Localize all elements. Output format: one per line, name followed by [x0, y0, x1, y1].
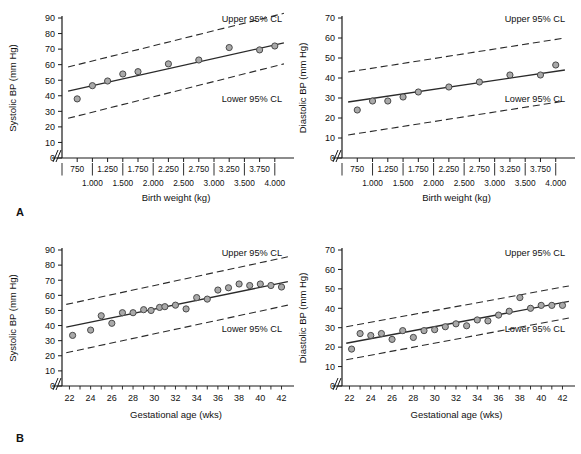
chart-svg-b-systolic: 0102030405060708090Systolic BP (mm Hg)22… — [0, 228, 300, 428]
data-point — [378, 330, 384, 336]
x-axis-tick-label: 1.750 — [128, 164, 149, 174]
y-axis-tick-label: 40 — [325, 304, 335, 314]
y-axis-tick-label: 0 — [50, 153, 55, 163]
data-point — [141, 307, 147, 313]
data-point — [215, 287, 221, 293]
data-point — [109, 320, 115, 326]
data-point — [369, 98, 375, 104]
data-point — [225, 285, 231, 291]
data-point — [385, 98, 391, 104]
data-point — [549, 302, 555, 308]
x-axis-tick-label: 38 — [234, 393, 244, 403]
y-axis-tick-label: 20 — [45, 351, 55, 361]
x-axis-tick-label: 2.500 — [173, 178, 194, 188]
x-axis-tick-label: 3.000 — [204, 178, 225, 188]
data-point — [453, 321, 459, 327]
x-axis-tick-label: 1.250 — [377, 164, 398, 174]
x-axis-tick-label: 3.000 — [484, 178, 505, 188]
y-axis-tick-label: 50 — [325, 284, 335, 294]
y-axis-tick-label: 0 — [330, 153, 335, 163]
chart-panel-a-diastolic: 010203040506070Diastolic BP (mm Hg)7501.… — [290, 0, 581, 210]
data-point — [119, 310, 125, 316]
data-point — [348, 346, 354, 352]
figure-root: 0102030405060708090Systolic BP (mm Hg)75… — [0, 0, 581, 454]
data-point — [236, 281, 242, 287]
chart-svg-b-diastolic: 010203040506070Diastolic BP (mm Hg)22242… — [290, 228, 581, 428]
lower-cl-annotation: Lower 95% CL — [505, 324, 565, 334]
x-axis-tick-label: 3.750 — [249, 164, 270, 174]
x-axis-tick-label: 34 — [472, 393, 482, 403]
data-point — [400, 328, 406, 334]
x-axis-tick-label: 3.250 — [219, 164, 240, 174]
x-axis-tick-label: 40 — [255, 393, 265, 403]
data-point — [272, 43, 278, 49]
y-axis-tick-label: 0 — [330, 381, 335, 391]
data-point — [446, 84, 452, 90]
data-point — [432, 327, 438, 333]
y-axis-tick-label: 30 — [45, 336, 55, 346]
y-axis-tick-label: 70 — [325, 245, 335, 255]
lower-cl-annotation: Lower 95% CL — [222, 324, 282, 334]
data-point — [70, 332, 76, 338]
y-axis-tick-label: 70 — [325, 13, 335, 23]
y-axis-tick-label: 60 — [325, 33, 335, 43]
data-point — [172, 302, 178, 308]
x-axis-title: Gestational age (wks) — [130, 409, 222, 420]
data-point — [485, 318, 491, 324]
y-axis-title: Systolic BP (mm Hg) — [7, 274, 18, 361]
x-axis-tick-label: 32 — [451, 393, 461, 403]
data-point — [537, 72, 543, 78]
data-point — [442, 324, 448, 330]
y-axis-tick-label: 60 — [45, 60, 55, 70]
x-axis-tick-label: 1.500 — [112, 178, 133, 188]
x-axis-tick-label: 36 — [494, 393, 504, 403]
y-axis-tick-label: 40 — [45, 91, 55, 101]
data-point — [74, 96, 80, 102]
data-point — [89, 83, 95, 89]
regression-line — [68, 43, 284, 91]
chart-svg-a-diastolic: 010203040506070Diastolic BP (mm Hg)7501.… — [290, 0, 581, 210]
x-axis-tick-label: 32 — [170, 393, 180, 403]
panel-label-b: B — [16, 432, 24, 444]
chart-panel-b-diastolic: 010203040506070Diastolic BP (mm Hg)22242… — [290, 228, 581, 428]
data-point — [476, 79, 482, 85]
x-axis-tick-label: 1.750 — [408, 164, 429, 174]
data-point — [196, 57, 202, 63]
upper-cl-annotation: Upper 95% CL — [222, 14, 282, 24]
x-axis-tick-label: 1.000 — [362, 178, 383, 188]
x-axis-tick-label: 2.000 — [423, 178, 444, 188]
chart-panel-a-systolic: 0102030405060708090Systolic BP (mm Hg)75… — [0, 0, 300, 210]
data-point — [183, 306, 189, 312]
y-axis-tick-label: 40 — [325, 73, 335, 83]
x-axis-tick-label: 4.000 — [545, 178, 566, 188]
x-axis-tick-label: 28 — [128, 393, 138, 403]
data-point — [257, 281, 263, 287]
data-point — [148, 307, 154, 313]
y-axis-tick-label: 90 — [45, 245, 55, 255]
y-axis-tick-label: 10 — [325, 362, 335, 372]
data-point — [257, 47, 263, 53]
data-point — [507, 72, 513, 78]
x-axis-title: Birth weight (kg) — [422, 192, 491, 203]
x-axis-tick-label: 22 — [344, 393, 354, 403]
x-axis-tick-label: 38 — [515, 393, 525, 403]
upper-confidence-limit-line — [348, 38, 565, 72]
x-axis-tick-label: 3.750 — [530, 164, 551, 174]
x-axis-tick-label: 1.250 — [97, 164, 118, 174]
data-point — [226, 44, 232, 50]
y-axis-title: Systolic BP (mm Hg) — [7, 44, 18, 131]
x-axis-tick-label: 30 — [149, 393, 159, 403]
data-point — [204, 296, 210, 302]
x-axis-tick-label: 3.500 — [234, 178, 255, 188]
y-axis-tick-label: 50 — [45, 306, 55, 316]
data-point — [357, 330, 363, 336]
data-point — [162, 304, 168, 310]
y-axis-tick-label: 60 — [325, 265, 335, 275]
data-point — [400, 94, 406, 100]
lower-cl-annotation: Lower 95% CL — [222, 94, 282, 104]
data-point — [194, 295, 200, 301]
data-point — [527, 305, 533, 311]
x-axis-tick-label: 750 — [70, 164, 84, 174]
x-axis-tick-label: 1.500 — [393, 178, 414, 188]
y-axis-tick-label: 30 — [45, 107, 55, 117]
